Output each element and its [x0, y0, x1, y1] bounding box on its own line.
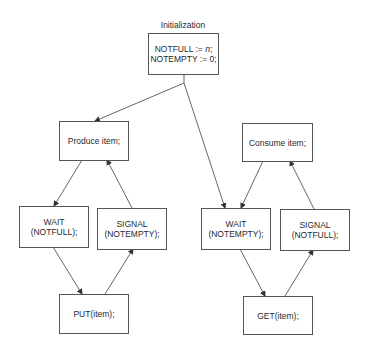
- signal-notfull-box: SIGNAL (NOTFULL);: [280, 209, 350, 251]
- put-item-box: PUT(item);: [59, 294, 129, 334]
- signal-condition-label: (NOTFULL);: [292, 230, 339, 240]
- signal-label: SIGNAL: [116, 219, 147, 229]
- edge-init-to-produce: [95, 83, 184, 121]
- edge-get-to-signal: [285, 250, 313, 296]
- signal-condition-label: (NOTEMPTY);: [104, 229, 159, 239]
- wait-condition-label: (NOTEMPTY);: [208, 229, 263, 239]
- edge-produce-to-wait: [54, 160, 82, 206]
- produce-item-box: Produce item;: [59, 121, 129, 161]
- init-box: NOTFULL := n; NOTEMPTY := 0;: [148, 33, 219, 75]
- initialization-title: Initialization: [133, 20, 233, 30]
- edge-wait-to-get: [240, 249, 265, 296]
- get-item-label: GET(item);: [257, 311, 299, 321]
- wait-label: WAIT: [44, 217, 65, 227]
- produce-item-label: Produce item;: [68, 136, 120, 146]
- put-item-label: PUT(item);: [73, 309, 114, 319]
- init-line-notfull: NOTFULL := n;: [155, 44, 213, 54]
- wait-notempty-box: WAIT (NOTEMPTY);: [201, 208, 271, 250]
- init-line-notempty: NOTEMPTY := 0;: [150, 54, 216, 64]
- edge-wait-to-put: [53, 247, 82, 294]
- edge-signal-to-produce: [107, 160, 132, 208]
- get-item-box: GET(item);: [243, 296, 313, 335]
- edge-put-to-signal: [105, 249, 133, 294]
- consume-item-label: Consume item;: [249, 138, 306, 148]
- consume-item-box: Consume item;: [242, 123, 313, 162]
- wait-condition-label: (NOTFULL);: [31, 227, 78, 237]
- wait-notfull-box: WAIT (NOTFULL);: [19, 206, 89, 248]
- edge-init-to-wait-notempty: [184, 83, 225, 208]
- signal-label: SIGNAL: [299, 220, 330, 230]
- signal-notempty-box: SIGNAL (NOTEMPTY);: [97, 208, 167, 250]
- wait-label: WAIT: [226, 219, 247, 229]
- edge-consume-to-wait: [241, 161, 263, 208]
- edge-signal-to-consume: [290, 161, 314, 209]
